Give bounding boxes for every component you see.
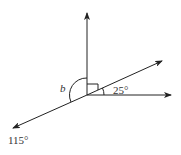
right-angle-marker	[87, 84, 98, 90]
angle-25-label: 25°	[113, 84, 128, 96]
angle-25-arc	[103, 88, 105, 95]
angle-diagram	[0, 0, 181, 155]
angle-b-label: b	[60, 82, 66, 94]
angle-115-label: 115°	[8, 134, 29, 146]
lower-left-ray	[13, 95, 87, 128]
